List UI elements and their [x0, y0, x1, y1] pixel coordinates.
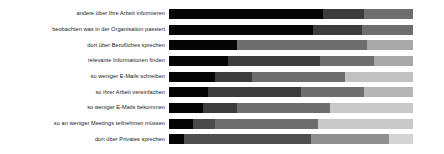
row-label: relevante Informationen finden	[0, 57, 169, 64]
chart-row: so an weniger Meetings teilnehmen müssen	[0, 116, 444, 132]
row-bar	[169, 9, 413, 19]
bar-segment-series-1	[169, 103, 203, 113]
row-label: dort über Privates sprechen	[0, 136, 169, 143]
row-bar	[169, 72, 413, 82]
bar-segment-series-2	[323, 9, 364, 19]
chart-row: dort über Berufliches sprechen	[0, 37, 444, 53]
row-label: beobachten was in der Organisation passi…	[0, 26, 169, 33]
row-bar	[169, 56, 413, 66]
chart-row: so weniger E-Mails bekommen	[0, 100, 444, 116]
bar-segment-series-4	[345, 72, 413, 82]
stacked-bar-chart: andere über Ihre Arbeit informierenbeoba…	[0, 0, 444, 154]
bar-segment-series-3	[237, 40, 366, 50]
row-label: so weniger E-Mails schreiben	[0, 73, 169, 80]
bar-segment-series-2	[215, 72, 252, 82]
bar-segment-series-4	[374, 56, 413, 66]
chart-row: andere über Ihre Arbeit informieren	[0, 6, 444, 22]
bar-segment-series-2	[228, 56, 321, 66]
bar-segment-series-3	[301, 87, 364, 97]
row-label: so weniger E-Mails bekommen	[0, 104, 169, 111]
bar-segment-series-1	[169, 119, 193, 129]
row-label: andere über Ihre Arbeit informieren	[0, 10, 169, 17]
row-bar	[169, 40, 413, 50]
bar-segment-series-1	[169, 87, 208, 97]
row-bar	[169, 134, 413, 144]
chart-row: relevante Informationen finden	[0, 53, 444, 69]
bar-segment-series-4	[318, 119, 413, 129]
bar-segment-series-2	[193, 119, 215, 129]
bar-segment-series-4	[367, 40, 413, 50]
chart-row: beobachten was in der Organisation passi…	[0, 22, 444, 38]
chart-row: dort über Privates sprechen	[0, 132, 444, 148]
bar-segment-series-2	[208, 87, 301, 97]
bar-segment-series-3	[364, 9, 413, 19]
chart-rows: andere über Ihre Arbeit informierenbeoba…	[0, 0, 444, 154]
bar-segment-series-1	[169, 56, 228, 66]
bar-segment-series-4	[364, 87, 413, 97]
bar-segment-series-3	[362, 25, 413, 35]
bar-segment-series-4	[330, 103, 413, 113]
bar-segment-series-3	[311, 134, 389, 144]
row-bar	[169, 119, 413, 129]
bar-segment-series-1	[169, 9, 323, 19]
bar-segment-series-2	[313, 25, 362, 35]
bar-segment-series-1	[169, 72, 215, 82]
bar-segment-series-1	[169, 25, 313, 35]
bar-segment-series-2	[184, 134, 311, 144]
bar-segment-series-3	[320, 56, 374, 66]
bar-segment-series-1	[169, 40, 237, 50]
row-bar	[169, 103, 413, 113]
bar-segment-series-1	[169, 134, 184, 144]
bar-segment-series-4	[389, 134, 413, 144]
row-label: so an weniger Meetings teilnehmen müssen	[0, 120, 169, 127]
chart-row: so weniger E-Mails schreiben	[0, 69, 444, 85]
bar-segment-series-3	[215, 119, 317, 129]
row-label: dort über Berufliches sprechen	[0, 42, 169, 49]
chart-row: so ihrer Arbeit vereinfachen	[0, 84, 444, 100]
row-label: so ihrer Arbeit vereinfachen	[0, 89, 169, 96]
row-bar	[169, 25, 413, 35]
bar-segment-series-2	[203, 103, 237, 113]
bar-segment-series-3	[252, 72, 345, 82]
row-bar	[169, 87, 413, 97]
bar-segment-series-3	[237, 103, 330, 113]
